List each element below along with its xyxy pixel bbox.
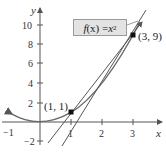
point-3-9 bbox=[131, 33, 136, 38]
callout-exponent: 2 bbox=[113, 24, 117, 32]
function-callout: f(x) = x2 bbox=[73, 19, 127, 36]
x-tick-label: 2 bbox=[99, 128, 104, 139]
point-1-1-label: (1, 1) bbox=[44, 100, 68, 113]
callout-pointer bbox=[127, 21, 138, 25]
y-tick-label: 4 bbox=[28, 78, 33, 89]
x-tick-label: 3 bbox=[130, 128, 135, 139]
point-3-9-label: (3, 9) bbox=[138, 30, 162, 43]
y-tick-label: 2 bbox=[28, 98, 33, 109]
y-axis-label: y bbox=[30, 4, 36, 16]
y-tick-label: 6 bbox=[28, 58, 33, 69]
y-tick-label: 8 bbox=[28, 39, 33, 50]
x-tick-label: −1 bbox=[3, 127, 14, 138]
callout-arg: (x) = bbox=[86, 22, 108, 34]
y-tick-label: −2 bbox=[24, 136, 35, 147]
point-1-1 bbox=[69, 110, 74, 115]
x-axis-label: x bbox=[155, 127, 161, 139]
y-tick-label: 10 bbox=[22, 20, 32, 31]
